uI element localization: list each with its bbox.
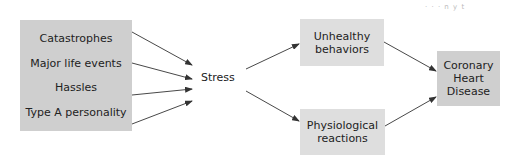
arrow-stress-to-unhealthy	[246, 44, 299, 69]
coronary-heart-disease-box: Coronary Heart Disease	[437, 51, 500, 106]
arrow-hassles-to-stress	[132, 89, 192, 95]
chd-line3: Disease	[447, 85, 490, 98]
chd-line2: Heart	[453, 72, 484, 85]
physio-line2: reactions	[317, 132, 368, 145]
arrow-type-a-to-stress	[132, 101, 192, 124]
arrow-physiological-to-chd	[385, 97, 436, 126]
physiological-reactions-box: Physiological reactions	[300, 109, 385, 155]
unhealthy-line2: behaviors	[315, 43, 369, 56]
source-major-life-events: Major life events	[30, 57, 121, 70]
source-hassles: Hassles	[55, 81, 97, 94]
arrow-stress-to-physiological	[246, 91, 299, 121]
arrow-major-life-events-to-stress	[132, 63, 192, 79]
arrow-catastrophes-to-stress	[132, 32, 192, 65]
chd-line1: Coronary	[443, 59, 493, 72]
unhealthy-line1: Unhealthy	[314, 30, 370, 43]
arrow-unhealthy-to-chd	[384, 42, 436, 71]
source-type-a-personality: Type A personality	[25, 106, 126, 119]
stress-node: Stress	[201, 71, 235, 84]
source-catastrophes: Catastrophes	[40, 32, 113, 45]
unhealthy-behaviors-box: Unhealthy behaviors	[300, 19, 384, 66]
stress-sources-box: Catastrophes Major life events Hassles T…	[20, 20, 132, 131]
physio-line1: Physiological	[307, 119, 378, 132]
